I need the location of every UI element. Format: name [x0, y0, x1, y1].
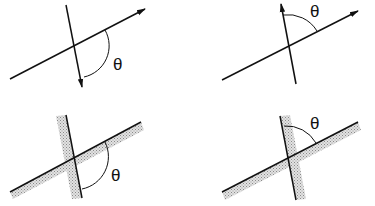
rightward-vector [10, 9, 145, 79]
theta-label: θ [310, 114, 319, 133]
rightward-vector [222, 11, 358, 80]
panel-top-right: θ [222, 2, 358, 84]
theta-label: θ [111, 166, 120, 185]
theta-label: θ [113, 55, 122, 74]
panel-bottom-left: θ [10, 115, 144, 199]
panel-bottom-right: θ [222, 114, 361, 200]
downward-vector [66, 5, 82, 87]
theta-label: θ [310, 2, 319, 21]
angle-arc [84, 30, 109, 77]
angle-diagram: θ θ θ θ [0, 0, 375, 206]
panel-top-left: θ [10, 5, 145, 87]
